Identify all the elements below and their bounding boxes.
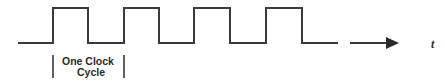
time-axis-label: t	[431, 37, 435, 51]
cycle-label-line2: Cycle	[77, 66, 105, 78]
time-axis-arrow	[350, 37, 399, 49]
clock-waveform	[18, 8, 338, 43]
clock-diagram: t One Clock Cycle	[0, 0, 445, 83]
arrow-head-icon	[386, 37, 399, 49]
cycle-marker: One Clock Cycle	[53, 55, 124, 78]
